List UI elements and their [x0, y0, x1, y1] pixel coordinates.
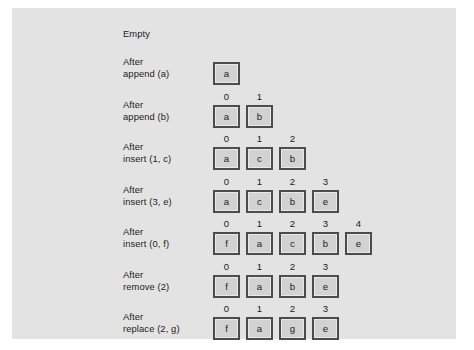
- cell-index-label: 1: [246, 176, 273, 188]
- cell-index-label: 4: [345, 218, 372, 230]
- array-cell: 0f: [213, 303, 240, 347]
- cell-box: a: [246, 275, 273, 298]
- array-operations-figure: EmptyAfter append (a)aAfter append (b)0a…: [12, 8, 456, 339]
- cell-box: b: [279, 275, 306, 298]
- cell-box: b: [279, 147, 306, 170]
- cell-value: a: [215, 149, 238, 168]
- operation-label: After insert (0, f): [123, 226, 213, 249]
- cell-value: f: [215, 277, 238, 296]
- cell-index-label: 3: [312, 176, 339, 188]
- cell-value: e: [314, 277, 337, 296]
- cell-value: c: [248, 149, 271, 168]
- cell-index-label: 2: [279, 133, 306, 145]
- cell-box: b: [246, 105, 273, 128]
- cell-index-label: 0: [213, 91, 240, 103]
- cell-box: b: [279, 190, 306, 213]
- array-cell: 0a: [213, 133, 240, 177]
- cell-box: e: [312, 190, 339, 213]
- cell-value: c: [281, 234, 304, 253]
- cell-value: a: [248, 277, 271, 296]
- cell-index-label: 2: [279, 303, 306, 315]
- cell-box: a: [213, 62, 240, 85]
- cell-box: a: [213, 147, 240, 170]
- array-cell: 1c: [246, 176, 273, 220]
- cell-index-label: 1: [246, 218, 273, 230]
- cell-value: a: [248, 234, 271, 253]
- cell-box: a: [213, 190, 240, 213]
- operation-row: After replace (2, g)0f1a2g3e: [12, 303, 456, 347]
- cell-value: b: [314, 234, 337, 253]
- cell-index-label: 0: [213, 303, 240, 315]
- operation-row: After insert (3, e)0a1c2b3e: [12, 176, 456, 220]
- cell-value: e: [314, 192, 337, 211]
- cell-value: f: [215, 234, 238, 253]
- cell-box: c: [279, 232, 306, 255]
- operation-row: After remove (2)0f1a2b3e: [12, 261, 456, 305]
- cell-index-label: 0: [213, 261, 240, 273]
- cell-value: e: [347, 234, 370, 253]
- array-cell: a: [213, 48, 240, 92]
- array-cell: 3e: [312, 303, 339, 347]
- operation-label: After append (a): [123, 56, 213, 79]
- cell-box: e: [345, 232, 372, 255]
- cell-index-label: 1: [246, 133, 273, 145]
- cell-box: c: [246, 190, 273, 213]
- operation-label: After insert (1, c): [123, 141, 213, 164]
- array-cell: 4e: [345, 218, 372, 262]
- operation-label: Empty: [123, 28, 213, 40]
- cell-value: b: [248, 107, 271, 126]
- array-cell: 1a: [246, 303, 273, 347]
- cell-box: e: [312, 317, 339, 340]
- array-cell: 2c: [279, 218, 306, 262]
- cell-box: a: [246, 317, 273, 340]
- cell-index-label: 3: [312, 261, 339, 273]
- array-cell: 1a: [246, 261, 273, 305]
- operation-row: After insert (0, f)0f1a2c3b4e: [12, 218, 456, 262]
- cell-index-label: 0: [213, 218, 240, 230]
- operation-row: After append (a)a: [12, 48, 456, 92]
- cell-value: b: [281, 149, 304, 168]
- cell-index-label: 2: [279, 176, 306, 188]
- cell-box: b: [312, 232, 339, 255]
- cell-index-label: 1: [246, 91, 273, 103]
- cell-box: a: [213, 105, 240, 128]
- cell-value: b: [281, 277, 304, 296]
- array-cell: 3e: [312, 261, 339, 305]
- cell-box: f: [213, 317, 240, 340]
- cell-index-label: 2: [279, 218, 306, 230]
- array-cell: 2b: [279, 176, 306, 220]
- array-cell: 0f: [213, 218, 240, 262]
- operation-row: After append (b)0a1b: [12, 91, 456, 135]
- array-cell: 3e: [312, 176, 339, 220]
- cell-value: c: [248, 192, 271, 211]
- cell-value: b: [281, 192, 304, 211]
- cell-index-label: 0: [213, 133, 240, 145]
- array-cell: 1a: [246, 218, 273, 262]
- array-cell: 1b: [246, 91, 273, 135]
- operation-row: After insert (1, c)0a1c2b: [12, 133, 456, 177]
- operation-label: After insert (3, e): [123, 184, 213, 207]
- cell-index-label: 2: [279, 261, 306, 273]
- operation-label: After remove (2): [123, 269, 213, 292]
- array-cell: 0a: [213, 91, 240, 135]
- operation-rows: EmptyAfter append (a)aAfter append (b)0a…: [12, 8, 456, 339]
- operation-label: After replace (2, g): [123, 311, 213, 334]
- array-cell: 2b: [279, 133, 306, 177]
- array-cell: 2b: [279, 261, 306, 305]
- array-cell: 2g: [279, 303, 306, 347]
- cell-value: a: [215, 107, 238, 126]
- cell-value: e: [314, 319, 337, 338]
- array-cell: 3b: [312, 218, 339, 262]
- cell-value: a: [248, 319, 271, 338]
- cell-box: f: [213, 232, 240, 255]
- array-cell: 0a: [213, 176, 240, 220]
- cell-box: g: [279, 317, 306, 340]
- cell-index-label: 3: [312, 218, 339, 230]
- cell-box: c: [246, 147, 273, 170]
- cell-value: a: [215, 64, 238, 83]
- array-cell: 1c: [246, 133, 273, 177]
- operation-label: After append (b): [123, 99, 213, 122]
- cell-value: g: [281, 319, 304, 338]
- cell-box: a: [246, 232, 273, 255]
- cell-value: a: [215, 192, 238, 211]
